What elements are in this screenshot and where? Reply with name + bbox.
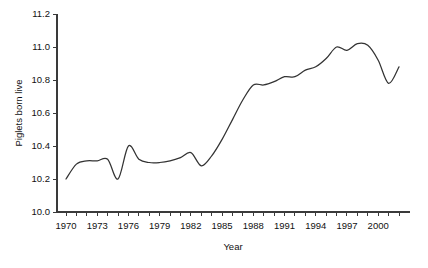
y-axis-ticks: [53, 14, 57, 212]
x-tick-label: 1997: [336, 220, 357, 231]
y-axis-tick-labels: 10.010.210.410.610.811.011.2: [32, 8, 51, 217]
x-axis-tick-labels: 1970197319761979198219851988199119941997…: [55, 220, 388, 231]
x-axis-title: Year: [223, 241, 242, 252]
x-tick-label: 1985: [212, 220, 233, 231]
chart-container: 10.010.210.410.610.811.011.2 19701973197…: [0, 0, 428, 268]
x-tick-label: 1976: [118, 220, 139, 231]
x-tick-label: 2000: [368, 220, 389, 231]
x-tick-label: 1982: [180, 220, 201, 231]
y-axis-title: Piglets born live: [13, 79, 24, 146]
y-tick-label: 10.2: [32, 173, 51, 184]
x-tick-label: 1973: [87, 220, 108, 231]
y-tick-label: 10.0: [32, 206, 51, 217]
x-tick-label: 1970: [55, 220, 76, 231]
y-tick-label: 10.8: [32, 74, 51, 85]
y-tick-label: 11.0: [32, 41, 50, 52]
y-tick-label: 10.6: [32, 107, 51, 118]
x-tick-label: 1979: [149, 220, 170, 231]
x-tick-label: 1991: [274, 220, 295, 231]
y-tick-label: 11.2: [32, 8, 50, 19]
y-tick-label: 10.4: [32, 140, 51, 151]
x-tick-label: 1988: [243, 220, 264, 231]
x-axis-ticks: [66, 212, 399, 216]
x-tick-label: 1994: [305, 220, 326, 231]
line-chart-plot: 10.010.210.410.610.811.011.2 19701973197…: [0, 0, 428, 268]
data-series-line: [66, 43, 399, 179]
